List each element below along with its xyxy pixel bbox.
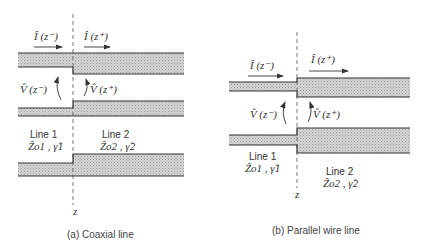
parallel-top-wire xyxy=(229,78,410,97)
parallel-line2-params: Ẑo2 , γ̂2 xyxy=(323,177,359,189)
coax-voltage-right-arrow xyxy=(84,79,87,96)
coax-current-left-label: Î (z⁻) xyxy=(33,30,58,43)
parallel-wire-figure: Î (z⁻) Î (z⁺) V̂ (z⁻) V̂ (z⁺) Line 1 Ẑo1… xyxy=(229,32,410,236)
coax-z-axis-label: z xyxy=(72,205,78,217)
coax-voltage-left-label: V̂ (z⁻) xyxy=(20,83,47,96)
coax-outer-top-conductor xyxy=(18,53,184,74)
coaxial-line-figure: Î (z⁻) Î (z⁺) V̂ (z⁻) V̂ (z⁺) Line 1 Ẑo1… xyxy=(18,14,184,240)
coax-voltage-right-label: V̂ (z⁺) xyxy=(90,83,117,96)
parallel-current-right-label: Î (z⁺) xyxy=(310,53,335,66)
coax-caption: (a) Coaxial line xyxy=(67,229,134,240)
parallel-voltage-left-arrow xyxy=(283,102,286,124)
parallel-line1-params: Ẑo1 , γ̂1 xyxy=(245,162,280,174)
coax-line1-title: Line 1 xyxy=(30,129,58,140)
coax-line2-params: Ẑo2 , γ̂2 xyxy=(100,140,136,152)
parallel-caption: (b) Parallel wire line xyxy=(272,225,360,236)
parallel-line2-title: Line 2 xyxy=(326,166,354,177)
parallel-voltage-left-label: V̂ (z⁻) xyxy=(250,108,277,121)
coax-line2-title: Line 2 xyxy=(102,129,130,140)
parallel-voltage-right-arrow xyxy=(308,102,311,122)
coax-outer-bottom-conductor xyxy=(18,154,184,176)
parallel-current-left-label: Î (z⁻) xyxy=(249,59,274,72)
parallel-z-axis-label: z xyxy=(294,188,300,200)
parallel-line1-title: Line 1 xyxy=(249,151,277,162)
coax-voltage-left-arrow xyxy=(57,77,61,100)
parallel-bottom-wire xyxy=(229,128,410,153)
parallel-voltage-right-label: V̂ (z⁺) xyxy=(313,108,340,121)
coax-line1-params: Ẑo1 , γ̂1 xyxy=(28,140,63,152)
coax-current-right-label: Î (z⁺) xyxy=(83,30,108,43)
diagram-canvas: Î (z⁻) Î (z⁺) V̂ (z⁻) V̂ (z⁺) Line 1 Ẑo1… xyxy=(0,0,427,246)
